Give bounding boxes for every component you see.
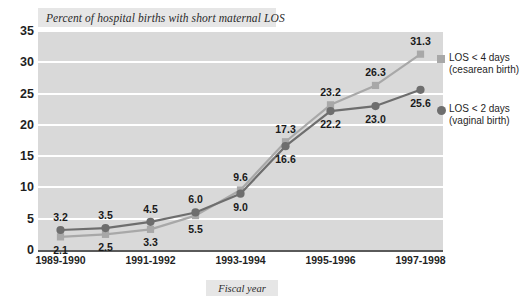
data-point-marker[interactable] bbox=[417, 51, 424, 58]
data-value-label: 17.3 bbox=[275, 123, 295, 135]
data-value-label: 3.2 bbox=[53, 211, 68, 223]
y-axis-tick-label: 35 bbox=[0, 24, 34, 38]
x-axis-tick-label: 1995-1996 bbox=[305, 254, 355, 266]
x-axis-tick-label: 1991-1992 bbox=[125, 254, 175, 266]
data-point-marker[interactable] bbox=[147, 226, 154, 233]
chart-title-band: Percent of hospital births with short ma… bbox=[38, 8, 276, 27]
y-axis-tick-label: 10 bbox=[0, 180, 34, 194]
data-point-marker[interactable] bbox=[236, 190, 244, 198]
y-axis-tick-label: 15 bbox=[0, 149, 34, 163]
legend-item-vaginal[interactable]: LOS < 2 days (vaginal birth) bbox=[449, 103, 531, 126]
data-point-marker[interactable] bbox=[191, 208, 199, 216]
chart-figure: Percent of hospital births with short ma… bbox=[0, 0, 531, 302]
legend-label-vaginal-line2: (vaginal birth) bbox=[449, 115, 531, 127]
data-value-label: 23.2 bbox=[320, 86, 340, 98]
data-value-label: 2.1 bbox=[53, 244, 68, 256]
data-point-marker[interactable] bbox=[57, 233, 64, 240]
data-value-label: 23.0 bbox=[365, 113, 385, 125]
data-point-marker[interactable] bbox=[371, 102, 379, 110]
data-value-label: 16.6 bbox=[275, 153, 295, 165]
y-axis: 05101520253035 bbox=[0, 31, 34, 250]
legend-label-cesarean-line1: LOS < 4 days bbox=[449, 52, 531, 64]
data-point-marker[interactable] bbox=[146, 218, 154, 226]
data-value-label: 3.5 bbox=[98, 209, 113, 221]
legend-marker-square-icon bbox=[437, 55, 445, 63]
data-point-marker[interactable] bbox=[326, 107, 334, 115]
y-axis-tick-label: 5 bbox=[0, 212, 34, 226]
data-value-label: 4.5 bbox=[143, 203, 158, 215]
x-axis-tick-label: 1993-1994 bbox=[215, 254, 265, 266]
data-point-marker[interactable] bbox=[56, 226, 64, 234]
data-value-label: 25.6 bbox=[410, 97, 430, 109]
y-axis-tick-label: 30 bbox=[0, 55, 34, 69]
data-value-label: 31.3 bbox=[410, 35, 430, 47]
data-point-marker[interactable] bbox=[281, 142, 289, 150]
data-value-label: 9.0 bbox=[233, 201, 248, 213]
data-point-marker[interactable] bbox=[416, 86, 424, 94]
legend-label-cesarean-line2: (cesarean birth) bbox=[449, 64, 531, 76]
y-axis-tick-label: 20 bbox=[0, 118, 34, 132]
x-axis-label-band: Fiscal year bbox=[206, 280, 278, 296]
legend-marker-circle-icon bbox=[437, 106, 446, 115]
data-value-label: 2.5 bbox=[98, 241, 113, 253]
data-point-marker[interactable] bbox=[372, 82, 379, 89]
data-value-label: 5.5 bbox=[188, 223, 203, 235]
data-value-label: 22.2 bbox=[320, 118, 340, 130]
data-value-label: 6.0 bbox=[188, 193, 203, 205]
data-value-label: 26.3 bbox=[365, 66, 385, 78]
data-value-label: 9.6 bbox=[233, 171, 248, 183]
chart-title: Percent of hospital births with short ma… bbox=[46, 12, 285, 24]
y-axis-tick-label: 0 bbox=[0, 243, 34, 257]
legend-item-cesarean[interactable]: LOS < 4 days (cesarean birth) bbox=[449, 52, 531, 75]
x-axis: 1989-19901991-19921993-19941995-19961997… bbox=[38, 254, 443, 270]
data-value-label: 3.3 bbox=[143, 236, 158, 248]
data-point-marker[interactable] bbox=[101, 224, 109, 232]
x-axis-tick-label: 1997-1998 bbox=[395, 254, 445, 266]
x-axis-label: Fiscal year bbox=[218, 283, 266, 294]
y-axis-tick-label: 25 bbox=[0, 87, 34, 101]
legend-label-vaginal-line1: LOS < 2 days bbox=[449, 103, 531, 115]
